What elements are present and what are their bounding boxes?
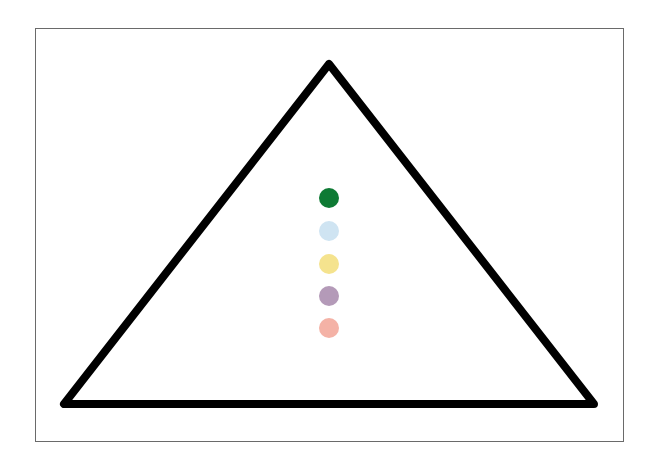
diagram-canvas [0, 0, 656, 463]
yellow-dot [319, 254, 339, 274]
mauve-dot [319, 286, 339, 306]
dot-column [319, 188, 339, 338]
light-blue-dot [319, 221, 339, 241]
dark-green-dot [319, 188, 339, 208]
salmon-dot [319, 318, 339, 338]
